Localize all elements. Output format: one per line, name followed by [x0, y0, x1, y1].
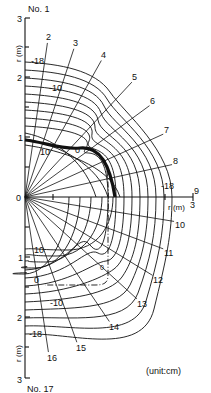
radial-line-label-5: 5: [132, 72, 137, 82]
tick-label-upper-1: 1: [18, 133, 23, 143]
radial-line-label-12: 12: [153, 275, 163, 285]
contour-label-upper-10: 10: [40, 147, 50, 157]
tick-label-horizontal-3: 3: [190, 200, 195, 210]
label-no-17: No. 17: [27, 384, 54, 393]
radial-line-label-15: 15: [76, 343, 86, 353]
unit-label: (unit:cm): [146, 366, 181, 376]
tick-label-lower-1: 1: [18, 253, 23, 263]
radial-line-label-16: 16: [47, 353, 57, 363]
radial-line-label-4: 4: [101, 50, 106, 60]
radial-line-label-9: 9: [194, 186, 199, 196]
tick-label-upper-3: 3: [17, 14, 22, 24]
contour-diagram: No. 1 3 2 1 0 1 2 3 No. 17 r (m) r (m) r…: [0, 0, 211, 393]
thick-contour-band: [25, 140, 115, 197]
radial-line-label-7: 7: [164, 125, 169, 135]
contour-label-lower-neg18: -18: [29, 329, 42, 339]
radial-line-label-6: 6: [150, 96, 155, 106]
labels: No. 1 3 2 1 0 1 2 3 No. 17 r (m) r (m) r…: [14, 4, 195, 393]
axis-label-lower: r (m): [14, 345, 23, 362]
contour-label-dashed-0: 0: [100, 264, 104, 271]
contour-lines: [13, 62, 172, 339]
contour-label-lower-0: 0: [34, 275, 39, 285]
tick-label-upper-2: 2: [17, 73, 22, 83]
contour-label-lower-neg10: -10: [50, 298, 63, 308]
contour-label-lower-10: 10: [34, 245, 44, 255]
radial-line-label-3: 3: [73, 38, 78, 48]
contour-label-upper-neg18: -18: [31, 56, 44, 66]
axis-label-horizontal: r (m): [168, 203, 185, 212]
origin-label: 0: [16, 193, 21, 203]
radial-line-label-10: 10: [175, 220, 185, 230]
radial-line-label-13: 13: [137, 299, 147, 309]
contour-label-upper-0: 0: [75, 145, 80, 155]
radial-line-label-8: 8: [173, 156, 178, 166]
radial-line-label-2: 2: [46, 32, 51, 42]
contour-label-upper-neg10: -10: [49, 83, 62, 93]
tick-label-lower-2: 2: [17, 313, 22, 323]
axis-label-upper: r (m): [14, 45, 23, 62]
radial-line-11: [25, 197, 163, 249]
label-no-1: No. 1: [28, 4, 50, 14]
radial-line-12: [25, 197, 153, 275]
radial-line-label-11: 11: [164, 248, 173, 258]
tick-label-lower-3: 3: [17, 375, 22, 385]
radial-line-label-14: 14: [109, 322, 119, 332]
contour-label-right-neg18: -18: [161, 181, 174, 191]
